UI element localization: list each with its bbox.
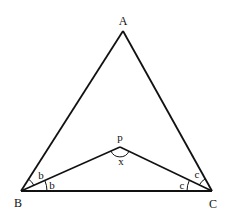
- angle-arc-c-upper: [199, 179, 205, 185]
- angle-label-c-lower: c: [180, 179, 185, 191]
- side-ac: [123, 31, 212, 191]
- vertex-label-p: p: [117, 131, 123, 143]
- angle-label-p: x: [118, 155, 124, 167]
- angle-label-b-upper: b: [38, 169, 44, 181]
- angle-arc-c-lower: [187, 180, 189, 191]
- vertex-label-b: B: [14, 196, 22, 210]
- vertex-label-c: C: [209, 197, 217, 211]
- vertex-label-a: A: [119, 14, 128, 28]
- angle-label-b-lower: b: [49, 179, 55, 191]
- geometry-diagram: A B C p b b c c x: [0, 0, 230, 216]
- side-ab: [21, 31, 123, 191]
- angle-label-c-upper: c: [195, 168, 200, 180]
- angle-arc-b-upper: [29, 179, 34, 185]
- angle-arc-b-lower: [45, 180, 47, 191]
